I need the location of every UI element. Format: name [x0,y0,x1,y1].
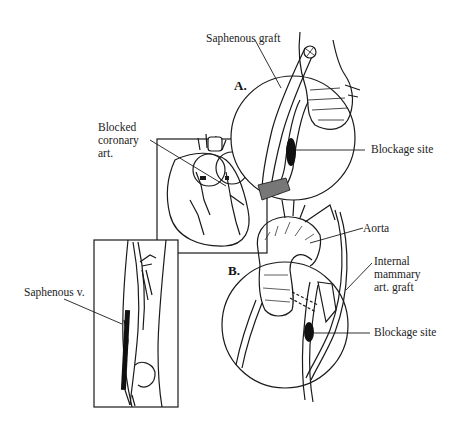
label-saphenous-vein: Saphenous v. [24,286,85,299]
illustration-drawing [0,0,464,424]
label-blocked-coronary-art: Blocked coronary art. [98,121,139,160]
panel-a-circle [231,76,355,200]
label-blocked-line2: coronary [98,134,139,147]
label-im-line2: mammary [374,268,421,281]
label-blocked-line3: art. [98,147,139,160]
panel-a-letter: A. [234,78,247,94]
label-im-line3: art. graft [374,281,421,294]
bypass-illustration: Saphenous graft A. Blocked coronary art.… [0,0,464,424]
label-internal-mammary-graft: Internal mammary art. graft [374,255,421,294]
panel-b-circle [222,262,348,388]
label-aorta: Aorta [363,222,389,235]
leader-aorta [310,228,363,243]
label-blocked-line1: Blocked [98,121,139,134]
label-im-line1: Internal [374,255,421,268]
label-blockage-site-a: Blockage site [371,143,433,156]
label-blockage-site-b: Blockage site [374,326,436,339]
panel-b-letter: B. [228,263,240,279]
leader-internal-mammary [346,263,372,290]
label-saphenous-graft: Saphenous graft [206,32,280,45]
